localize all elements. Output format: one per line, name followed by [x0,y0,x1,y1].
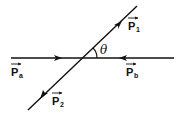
svg-text:P: P [11,66,18,78]
svg-text:P: P [52,95,59,107]
angle-label: θ [100,43,108,57]
svg-text:1: 1 [136,26,140,33]
svg-text:a: a [19,72,23,79]
angle-arc [93,48,97,58]
svg-text:P: P [128,20,135,32]
label-pa: P a [11,64,23,79]
svg-text:b: b [134,72,138,79]
arrow-p1 [114,21,122,29]
label-p1: P 1 [128,18,140,33]
svg-text:P: P [126,66,133,78]
label-p2: P 2 [52,93,64,108]
label-pb: P b [126,64,138,79]
svg-text:2: 2 [60,101,64,108]
vector-diagram: θ P 1 P a P b P 2 [0,0,185,123]
